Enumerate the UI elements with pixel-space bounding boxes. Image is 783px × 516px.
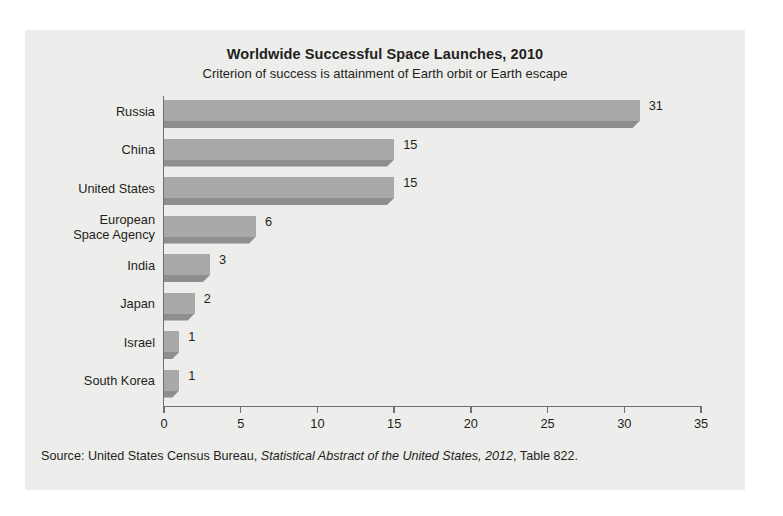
bar-body [164, 177, 394, 198]
plot-area: Russia31China15United States15European S… [163, 96, 700, 407]
category-label: India [0, 250, 155, 280]
x-axis-tick-label: 35 [694, 416, 708, 431]
figure-panel: Worldwide Successful Space Launches, 201… [25, 30, 745, 490]
x-axis-tick [163, 406, 165, 413]
source-note: Source: United States Census Bureau, Sta… [41, 449, 578, 463]
source-prefix: Source: United States Census Bureau, [41, 449, 261, 463]
x-axis-tick-label: 0 [160, 416, 167, 431]
x-axis-tick [393, 406, 395, 413]
bar-row: China15 [164, 135, 700, 174]
category-label: Israel [0, 327, 155, 357]
x-axis-tick-label: 20 [464, 416, 478, 431]
x-axis-tick-label: 5 [237, 416, 244, 431]
bar-body [164, 293, 195, 314]
bar-shadow [164, 160, 394, 167]
bar-value-label: 1 [188, 368, 195, 383]
x-axis-tick [317, 406, 319, 413]
x-axis-tick-label: 10 [310, 416, 324, 431]
x-axis-tick [624, 406, 626, 413]
bar-shadow [164, 237, 256, 244]
bar-shadow [164, 391, 179, 398]
bar-body [164, 216, 256, 237]
category-label: Russia [0, 96, 155, 126]
category-label: Japan [0, 289, 155, 319]
x-axis-tick-label: 25 [540, 416, 554, 431]
bar [164, 293, 195, 321]
bar-value-label: 1 [188, 329, 195, 344]
bar-shadow [164, 352, 179, 359]
bar-value-label: 15 [403, 137, 417, 152]
bar [164, 370, 179, 398]
chart-title: Worldwide Successful Space Launches, 201… [25, 46, 745, 62]
bar-value-label: 2 [204, 291, 211, 306]
category-label: China [0, 135, 155, 165]
x-axis-tick [470, 406, 472, 413]
bar-shadow [164, 314, 195, 321]
bar-value-label: 15 [403, 175, 417, 190]
category-label: United States [0, 173, 155, 203]
bar [164, 254, 210, 282]
bar-shadow [164, 198, 394, 205]
bar-shadow [164, 121, 640, 128]
category-label: South Korea [0, 366, 155, 396]
plot-inner: Russia31China15United States15European S… [164, 96, 700, 406]
x-axis-tick-label: 30 [617, 416, 631, 431]
source-title: Statistical Abstract of the United State… [261, 449, 513, 463]
x-axis-tick [547, 406, 549, 413]
bar-row: Russia31 [164, 96, 700, 135]
bar-value-label: 3 [219, 252, 226, 267]
bar-body [164, 370, 179, 391]
bar [164, 177, 394, 205]
bar-value-label: 31 [649, 98, 663, 113]
bar [164, 100, 640, 128]
bar-body [164, 254, 210, 275]
bar-row: India3 [164, 250, 700, 289]
bar-row: Japan2 [164, 289, 700, 328]
bar-body [164, 139, 394, 160]
bar-shadow [164, 275, 210, 282]
x-axis-tick [700, 406, 702, 413]
bar-value-label: 6 [265, 214, 272, 229]
chart-subtitle: Criterion of success is attainment of Ea… [25, 66, 745, 81]
bar [164, 139, 394, 167]
category-label: European Space Agency [0, 212, 155, 242]
bar-row: South Korea1 [164, 366, 700, 405]
x-axis-tick-label: 15 [387, 416, 401, 431]
bar-row: Israel1 [164, 327, 700, 366]
bar-body [164, 331, 179, 352]
bar-row: United States15 [164, 173, 700, 212]
source-suffix: , Table 822. [513, 449, 578, 463]
bar [164, 216, 256, 244]
bar-row: European Space Agency6 [164, 212, 700, 251]
x-axis-tick [240, 406, 242, 413]
bar [164, 331, 179, 359]
bar-body [164, 100, 640, 121]
